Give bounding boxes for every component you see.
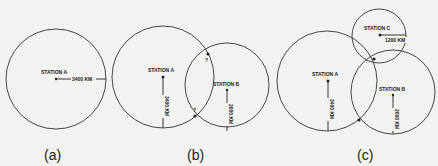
question-mark: ? [205, 57, 208, 63]
station-a-label: STATION A [312, 71, 338, 77]
panel-a: STATION A 3400 KM (a) [6, 29, 106, 163]
distance-label-c: 1200 KM [385, 37, 405, 43]
intersection-point [357, 118, 360, 121]
distance-label-b: 2000 KM [394, 109, 400, 129]
distance-label-a: 3400 KM [329, 99, 335, 119]
station-b-label: STATION B [379, 86, 406, 92]
question-mark: ? [193, 107, 196, 113]
station-b-label: STATION B [213, 81, 240, 87]
intersection-point [372, 57, 375, 60]
caption-a: (a) [44, 147, 61, 163]
panel-c: STATION A STATION B STATION C 1200 KM 34… [277, 9, 435, 163]
intersection-point [193, 114, 196, 117]
station-c-label: STATION C [364, 25, 391, 31]
distance-label-b: 2000 KM [228, 104, 234, 124]
distance-label: 3400 KM [72, 76, 92, 82]
station-a-label: STATION A [41, 69, 67, 75]
intersection-point [206, 52, 209, 55]
panel-b: STATION A STATION B ? ? 3400 KM 2000 KM … [112, 26, 269, 163]
distance-label-a: 3400 KM [164, 96, 170, 116]
caption-c: (c) [357, 147, 373, 163]
station-a-label: STATION A [148, 67, 174, 73]
caption-b: (b) [187, 147, 204, 163]
trilateration-diagram: STATION A 3400 KM (a) STATION A STATION … [0, 0, 438, 166]
